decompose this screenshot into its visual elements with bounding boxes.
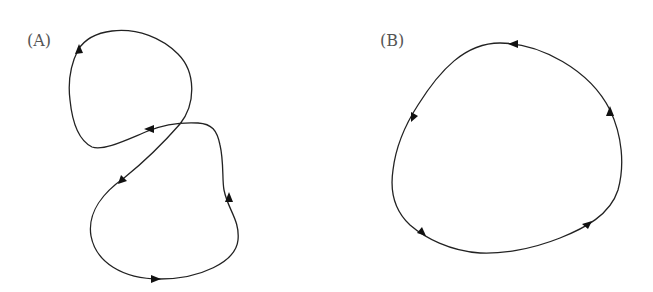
arrow-icon	[417, 227, 426, 236]
arrow-icon	[411, 112, 418, 122]
arrow-icon	[508, 40, 518, 48]
arrow-icon	[606, 106, 614, 116]
diagram-canvas: (A) (B)	[0, 0, 653, 292]
arrow-icon	[151, 275, 161, 283]
curve-b	[392, 40, 622, 253]
curve-a	[69, 30, 238, 283]
trajectory-diagram	[0, 0, 653, 292]
